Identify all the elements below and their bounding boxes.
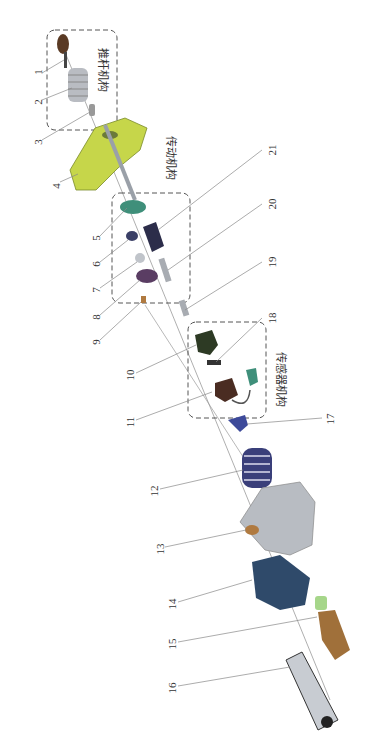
part-21-sleeve xyxy=(143,222,164,252)
part-2-spring xyxy=(68,68,88,102)
callout-16: 16 xyxy=(166,678,178,698)
transmission-group-label: 传动机构 xyxy=(164,136,180,180)
part-13-main-housing xyxy=(240,482,315,555)
sensor-group-label: 传感器机构 xyxy=(274,352,290,407)
part-10-sensor-element xyxy=(195,330,218,355)
callout-6: 6 xyxy=(90,254,102,274)
part-12-blue-spring xyxy=(242,448,272,488)
part-15-valve-block xyxy=(315,596,350,660)
callout-10: 10 xyxy=(124,365,136,385)
callout-8: 8 xyxy=(90,307,102,327)
callout-9: 9 xyxy=(90,332,102,352)
part-18-clip xyxy=(207,360,221,365)
part-6-bearing xyxy=(126,231,138,241)
callout-21: 21 xyxy=(266,140,278,160)
part-3-bushing xyxy=(89,104,95,116)
callout-17: 17 xyxy=(324,409,336,429)
callout-15: 15 xyxy=(166,634,178,654)
push-rod-group-label: 推杆机构 xyxy=(96,48,112,92)
callout-4: 4 xyxy=(50,176,62,196)
part-5-gear xyxy=(120,200,146,214)
callout-13: 13 xyxy=(154,539,166,559)
exploded-diagram xyxy=(0,0,390,737)
callout-3: 3 xyxy=(32,132,44,152)
sensor-connector xyxy=(246,368,258,386)
part-7-nut xyxy=(135,253,145,263)
callout-5: 5 xyxy=(90,228,102,248)
callout-12: 12 xyxy=(148,481,160,501)
callout-19: 19 xyxy=(266,252,278,272)
part-14-motor xyxy=(252,555,310,610)
callout-18: 18 xyxy=(266,308,278,328)
part-11-sensor-body xyxy=(215,378,238,402)
part-4-transmission-housing xyxy=(70,118,147,200)
callout-1: 1 xyxy=(32,62,44,82)
part-20-shaft xyxy=(158,258,171,283)
callout-11: 11 xyxy=(124,412,136,432)
callout-7: 7 xyxy=(90,280,102,300)
part-9-pin xyxy=(141,296,146,303)
callout-20: 20 xyxy=(266,194,278,214)
callout-14: 14 xyxy=(166,594,178,614)
callout-2: 2 xyxy=(32,92,44,112)
part-16-cylinder xyxy=(286,652,338,730)
